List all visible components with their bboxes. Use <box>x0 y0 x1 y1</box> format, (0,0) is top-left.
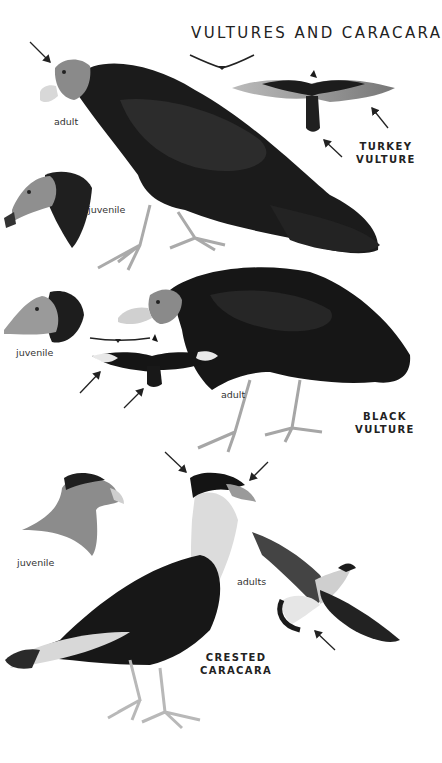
label-adult: adult <box>54 116 78 127</box>
species-name-black-vulture: BLACK VULTURE <box>355 410 415 436</box>
species-name-line: BLACK <box>355 410 415 423</box>
arrow-pointer <box>80 372 100 393</box>
arrow-pointer <box>315 631 335 650</box>
arrow-pointer <box>30 42 50 62</box>
species-name-line: VULTURE <box>355 423 415 436</box>
crested-caracara-flight <box>252 532 400 642</box>
label-adults: adults <box>237 576 266 587</box>
arrow-pointer <box>250 462 268 480</box>
label-adult: adult <box>221 389 245 400</box>
arrow-pointer <box>124 389 143 408</box>
page-title: VULTURES AND CARACARA <box>191 24 442 42</box>
label-juvenile: juvenile <box>88 204 125 215</box>
turkey-vulture-flight-below <box>232 70 395 132</box>
crested-caracara-juvenile-head <box>22 473 124 556</box>
species-name-crested-caracara: CRESTED CARACARA <box>200 651 272 677</box>
label-juvenile: juvenile <box>16 347 53 358</box>
species-name-line: CARACARA <box>200 664 272 677</box>
species-name-line: VULTURE <box>356 153 416 166</box>
arrow-pointer <box>165 452 186 472</box>
crested-caracara-adult-perched <box>5 473 256 728</box>
arrow-pointer <box>324 140 342 157</box>
label-juvenile: juvenile <box>17 557 54 568</box>
species-name-line: TURKEY <box>356 140 416 153</box>
turkey-vulture-juvenile-head <box>4 172 92 248</box>
species-name-line: CRESTED <box>200 651 272 664</box>
species-name-turkey-vulture: TURKEY VULTURE <box>356 140 416 166</box>
black-vulture-juvenile-head <box>4 291 84 343</box>
arrow-pointer <box>372 108 388 128</box>
